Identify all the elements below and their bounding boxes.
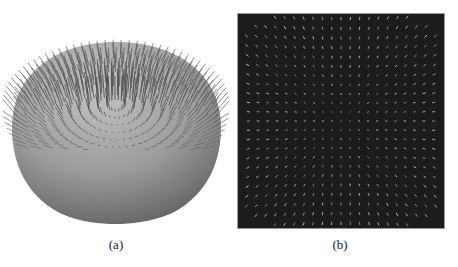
dome-vector-field-illustration <box>0 0 232 235</box>
caption-b: (b) <box>320 237 360 253</box>
projected-vector-dashes <box>245 16 437 226</box>
dome-surface <box>12 42 221 224</box>
subfigure-b: (b) <box>232 0 458 267</box>
projection-panel <box>237 13 445 229</box>
subfigure-a: (a) <box>0 0 232 267</box>
caption-a: (a) <box>96 237 136 253</box>
projected-vector-field-illustration <box>238 14 444 228</box>
